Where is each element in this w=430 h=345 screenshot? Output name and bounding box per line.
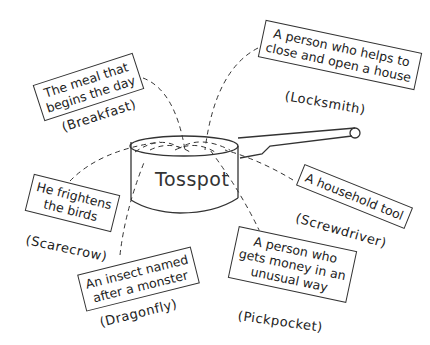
center-word: Tosspot (155, 168, 229, 190)
